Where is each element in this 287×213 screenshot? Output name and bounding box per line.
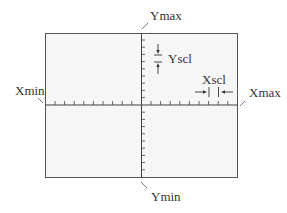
xmin-label: Xmin xyxy=(15,83,45,98)
ymax-label: Ymax xyxy=(150,8,182,23)
xmin-leader xyxy=(38,98,43,103)
xmax-leader xyxy=(240,101,245,106)
viewing-window-diagram: Ymax Xmin Xmax Ymin Yscl Xscl xyxy=(0,0,287,213)
xscl-label: Xscl xyxy=(202,72,226,87)
ymin-leader xyxy=(141,182,147,188)
xmax-label: Xmax xyxy=(249,85,281,100)
ymin-label: Ymin xyxy=(151,189,181,204)
ymax-leader xyxy=(142,23,148,29)
yscl-label: Yscl xyxy=(168,51,192,66)
